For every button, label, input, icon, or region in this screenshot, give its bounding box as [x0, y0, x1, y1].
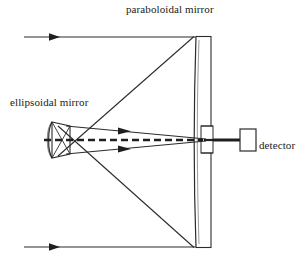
label-ellipsoidal-mirror: ellipsoidal mirror: [10, 96, 88, 108]
label-detector: detector: [259, 139, 295, 151]
diagram-canvas: [0, 0, 303, 264]
detector-box: [240, 129, 256, 151]
arrowhead-top-incoming: [49, 33, 60, 41]
arrowhead-bottom-incoming: [49, 243, 60, 251]
arrowhead-converging-upper: [118, 127, 131, 134]
incoming-ray-top: [24, 33, 196, 41]
arrowhead-converging-lower: [118, 146, 131, 153]
label-paraboloidal-mirror: paraboloidal mirror: [126, 3, 214, 15]
converging-ray-lower: [66, 141, 206, 154]
incoming-ray-bottom: [24, 243, 196, 251]
optical-diagram-figure: paraboloidal mirror ellipsoidal mirror d…: [0, 0, 303, 264]
converging-ray-upper: [66, 126, 206, 139]
